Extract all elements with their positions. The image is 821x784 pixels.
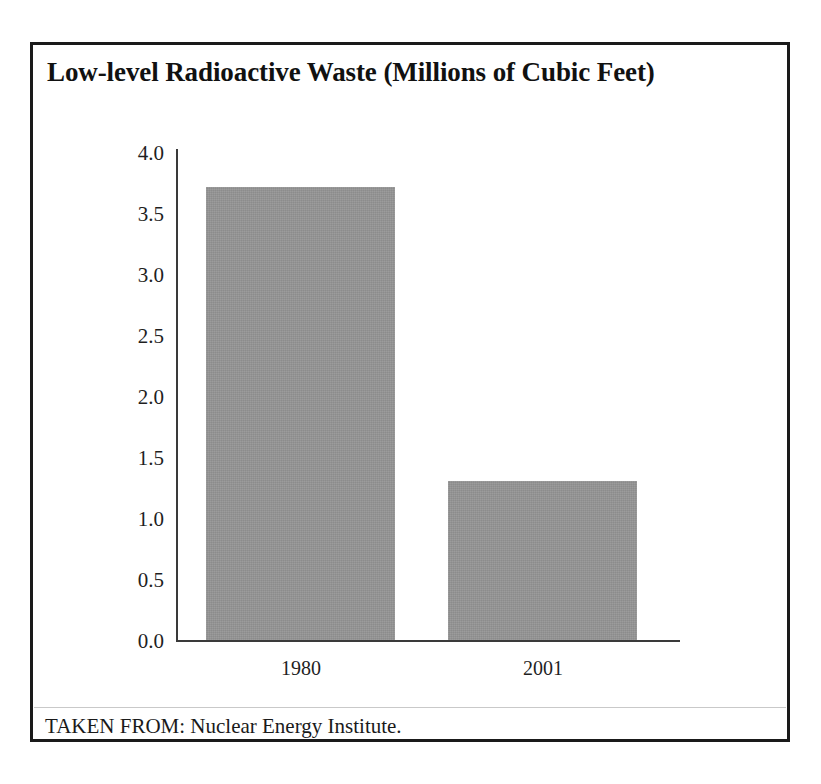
y-tick-label-2-0: 2.0 [104, 387, 164, 408]
x-tick-label-2001: 2001 [468, 658, 618, 678]
plot-area: 4.0 3.5 3.0 2.5 2.0 1.5 1.0 0.5 0.0 1980… [33, 45, 787, 739]
x-axis-line [176, 640, 680, 642]
y-axis-tick-labels: 4.0 3.5 3.0 2.5 2.0 1.5 1.0 0.5 0.0 [96, 45, 164, 739]
source-divider [34, 707, 786, 708]
y-tick-label-3-0: 3.0 [104, 265, 164, 286]
source-note: TAKEN FROM: Nuclear Energy Institute. [45, 714, 402, 738]
figure-frame: Low-level Radioactive Waste (Millions of… [30, 42, 790, 742]
y-tick-label-0-0: 0.0 [104, 631, 164, 652]
y-tick-label-4-0: 4.0 [104, 143, 164, 164]
bar-2001 [448, 481, 637, 640]
x-tick-label-1980: 1980 [226, 658, 376, 678]
bar-1980 [206, 187, 395, 640]
y-tick-label-1-0: 1.0 [104, 509, 164, 530]
y-tick-label-3-5: 3.5 [104, 204, 164, 225]
y-axis-line [176, 149, 178, 642]
y-tick-label-2-5: 2.5 [104, 326, 164, 347]
y-tick-label-0-5: 0.5 [104, 570, 164, 591]
y-tick-label-1-5: 1.5 [104, 448, 164, 469]
